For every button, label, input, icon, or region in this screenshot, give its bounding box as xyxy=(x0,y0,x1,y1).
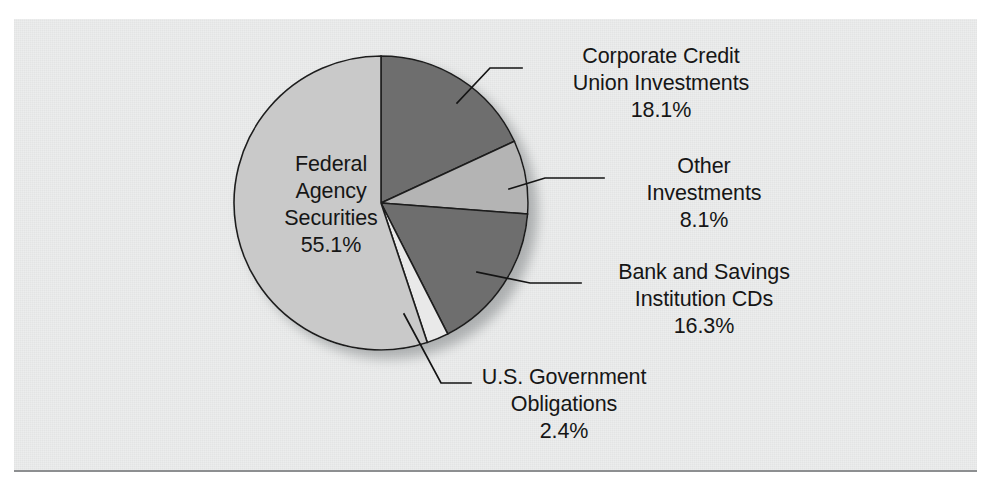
slice-label-line1: Bank and Savings xyxy=(585,259,823,286)
slice-value-other-investments: 8.1% xyxy=(608,207,800,234)
slice-label-federal-agency-securities: Federal Agency Securities 55.1% xyxy=(247,151,415,259)
slice-label-other-investments: Other Investments 8.1% xyxy=(608,153,800,234)
slice-label-bank-and-savings-institution-cds: Bank and Savings Institution CDs 16.3% xyxy=(585,259,823,340)
slice-label-line1: Corporate Credit xyxy=(526,43,796,70)
slice-value-us-government-obligations: 2.4% xyxy=(446,418,682,445)
slice-value-corporate-credit-union-investments: 18.1% xyxy=(526,97,796,124)
slice-label-line2: Agency xyxy=(247,178,415,205)
slice-value-bank-and-savings-institution-cds: 16.3% xyxy=(585,313,823,340)
slice-label-us-government-obligations: U.S. Government Obligations 2.4% xyxy=(446,364,682,445)
bottom-divider-rule xyxy=(14,470,977,472)
slice-label-line1: Other xyxy=(608,153,800,180)
slice-label-line3: Securities xyxy=(247,205,415,232)
slice-label-corporate-credit-union-investments: Corporate Credit Union Investments 18.1% xyxy=(526,43,796,124)
slice-label-line2: Obligations xyxy=(446,391,682,418)
pie-chart-figure: Federal Agency Securities 55.1% Corporat… xyxy=(0,0,993,489)
slice-label-line1: Federal xyxy=(247,151,415,178)
slice-label-line2: Institution CDs xyxy=(585,286,823,313)
slice-label-line2: Investments xyxy=(608,180,800,207)
slice-value-federal-agency-securities: 55.1% xyxy=(247,232,415,259)
slice-label-line1: U.S. Government xyxy=(446,364,682,391)
slice-label-line2: Union Investments xyxy=(526,70,796,97)
